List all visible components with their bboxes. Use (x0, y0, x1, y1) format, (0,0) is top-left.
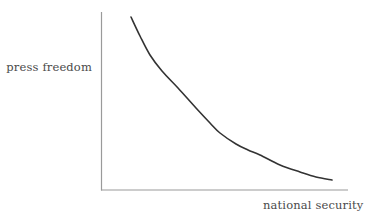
tradeoff-curve (131, 17, 332, 180)
x-axis-label: national security (263, 200, 363, 212)
plot-area (0, 0, 377, 222)
y-axis-label: press freedom (0, 62, 92, 74)
figure-canvas: press freedom national security (0, 0, 377, 222)
